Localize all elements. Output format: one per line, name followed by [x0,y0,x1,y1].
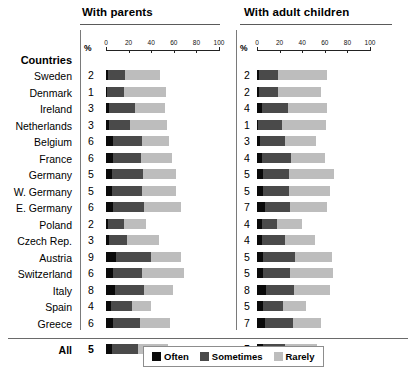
bar-row: 5 [240,184,390,201]
bar-segment-sometimes [116,252,151,262]
axis-right: % 020406080100 [240,38,388,56]
bar-segment-rarely [289,186,331,196]
bar-segment-rarely [140,318,171,328]
axis-tick-label-60: 60 [321,39,328,46]
bar-row: 2 [240,68,390,85]
bar-segment-rarely [124,219,145,229]
country-label-italy: Italy [0,283,76,300]
bar-value-label: 5 [240,250,254,264]
bar-value-label: 5 [84,342,98,356]
stacked-bar [257,153,325,163]
bar-segment-rarely [142,186,176,196]
bar-row: 1 [240,118,390,135]
stacked-bar [257,268,333,278]
stacked-bar [257,120,326,130]
axis-tick-20 [129,50,130,53]
bar-segment-rarely [127,235,159,245]
bar-segment-sometimes [259,87,278,97]
bar-value-label: 2 [84,68,98,82]
bar-segment-rarely [290,268,333,278]
panel-title-with-adult-children: With adult children [244,6,349,18]
stacked-bar [106,153,172,163]
bottom-rule [8,338,408,339]
bar-segment-rarely [132,301,151,311]
stacked-bar [257,252,332,262]
bar-row: 4 [240,101,390,118]
axis-tick-40 [302,50,303,53]
country-label-spain: Spain [0,299,76,316]
bar-value-label: 5 [240,266,254,280]
bar-segment-often [106,285,115,295]
bar-segment-often [106,202,113,212]
bar-row: 7 [240,316,390,333]
bar-segment-rarely [124,87,166,97]
country-label-austria: Austria [0,250,76,267]
country-label-sweden: Sweden [0,68,76,85]
country-label-e-germany: E. Germany [0,200,76,217]
axis-tick-label-20: 20 [276,39,283,46]
country-label-greece: Greece [0,316,76,333]
bar-segment-sometimes [107,87,124,97]
bar-row: 1 [84,85,234,102]
country-label-column: Countries SwedenDenmarkIrelandNetherland… [0,52,76,359]
bar-row: 4 [240,233,390,250]
bar-segment-rarely [278,87,321,97]
bar-value-label: 8 [240,283,254,297]
bar-segment-rarely [144,202,180,212]
bar-segment-rarely [285,235,314,245]
bar-segment-rarely [289,169,334,179]
bar-value-label: 9 [84,250,98,264]
bar-value-label: 6 [84,266,98,280]
bar-value-label: 4 [240,217,254,231]
legend-item-often: Often [152,351,189,362]
bar-row: 2 [240,85,390,102]
bar-segment-sometimes [112,169,144,179]
axis-tick-label-40: 40 [148,39,155,46]
bar-row: 6 [84,134,234,151]
country-label-netherlands: Netherlands [0,118,76,135]
chart-legend: OftenSometimesRarely [143,346,324,367]
stacked-bar [106,268,184,278]
legend-item-sometimes: Sometimes [200,351,263,362]
bar-segment-sometimes [112,344,138,354]
bar-row: 4 [84,299,234,316]
axis-tick-100 [370,47,371,51]
bar-segment-rarely [130,120,167,130]
bar-row: 2 [84,217,234,234]
bar-segment-sometimes [113,318,140,328]
bar-value-label: 5 [240,167,254,181]
bar-segment-sometimes [108,219,124,229]
bar-row: 8 [240,283,390,300]
bar-row: 3 [84,101,234,118]
bar-value-label: 6 [84,316,98,330]
bar-segment-sometimes [113,153,141,163]
bar-segment-often [106,252,116,262]
bar-value-label: 1 [84,85,98,99]
axis-tick-label-80: 80 [344,39,351,46]
stacked-bar [106,202,181,212]
vertical-separator-left [80,30,81,330]
bar-value-label: 3 [240,134,254,148]
bar-segment-often [106,136,113,146]
bar-value-label: 5 [84,167,98,181]
bar-value-label: 8 [84,283,98,297]
bar-value-label: 1 [240,118,254,132]
bar-segment-sometimes [263,169,289,179]
stacked-bar [257,169,334,179]
bar-segment-rarely [294,285,330,295]
bar-segment-sometimes [109,235,127,245]
stacked-bar [257,186,330,196]
bar-row: 2 [84,68,234,85]
legend-item-rarely: Rarely [274,351,315,362]
bar-segment-sometimes [113,202,145,212]
bar-value-label: 6 [84,151,98,165]
axis-tick-0 [257,47,258,51]
stacked-bar [257,318,321,328]
bar-segment-sometimes [263,252,296,262]
bar-segment-often [106,153,113,163]
bar-value-label: 4 [84,299,98,313]
bar-segment-sometimes [262,219,278,229]
axis-line-right [257,50,370,51]
axis-tick-label-60: 60 [170,39,177,46]
bar-value-label: 5 [240,184,254,198]
